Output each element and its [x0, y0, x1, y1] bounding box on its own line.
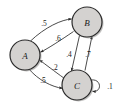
edge-b-to-a-label: .6 [55, 34, 61, 43]
edge-b-to-c: .4 [66, 36, 79, 72]
state-transition-diagram: .5 .6 .2 .5 .4 .7 .1 [0, 0, 122, 108]
node-a-label: A [21, 51, 28, 61]
node-b[interactable]: B [72, 7, 104, 39]
edge-a-to-b-label: .5 [41, 19, 47, 28]
edge-b-to-c-label: .4 [66, 50, 72, 59]
edge-c-to-b-label: .7 [85, 50, 91, 59]
node-c[interactable]: C [62, 70, 94, 102]
node-c-label: C [74, 81, 81, 91]
node-b-label: B [84, 18, 90, 28]
edge-c-to-c-self-loop: .1 [91, 80, 113, 92]
edge-b-to-c-path [72, 36, 80, 72]
edge-c-to-a-label: .2 [52, 63, 58, 72]
edge-c-to-c-label: .1 [107, 82, 113, 91]
edge-a-to-c-label: .5 [40, 76, 46, 85]
edge-a-to-b: .5 [30, 19, 72, 42]
edge-c-to-b: .7 [85, 36, 92, 71]
diagram-canvas: .5 .6 .2 .5 .4 .7 .1 [0, 0, 122, 108]
node-a[interactable]: A [10, 40, 42, 72]
edge-a-to-b-path [30, 19, 72, 42]
